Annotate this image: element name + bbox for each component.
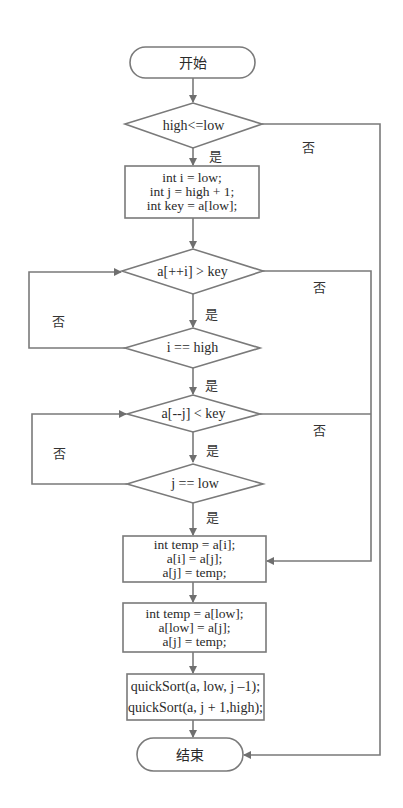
decision-1-no-label: 否: [302, 137, 315, 156]
process-3-text: int temp = a[low]; a[low] = a[j]; a[j] =…: [123, 603, 266, 652]
decision-2-no-label: 否: [313, 277, 326, 296]
process-4-text: quickSort(a, low, j –1); quickSort(a, j …: [127, 674, 264, 720]
process-2-line-3: a[j] = temp;: [163, 566, 227, 580]
process-2-line-2: a[i] = a[j];: [167, 552, 223, 566]
decision-5-yes-label: 是: [206, 507, 219, 526]
process-3-line-1: int temp = a[low];: [146, 607, 244, 621]
decision-1-yes-label: 是: [209, 146, 222, 165]
decision-2-label: a[++i] > key: [122, 249, 263, 294]
decision-1-label: high<=low: [125, 103, 262, 148]
decision-3-no-label: 否: [52, 311, 65, 330]
process-1-line-1: int i = low;: [162, 171, 222, 185]
process-4-line-1: quickSort(a, low, j –1);: [131, 676, 260, 697]
process-3-line-3: a[j] = temp;: [163, 635, 227, 649]
decision-5-no-label: 否: [53, 443, 66, 462]
decision-3-label: i == high: [125, 328, 260, 368]
decision-3-yes-label: 是: [205, 375, 218, 394]
decision-2-yes-label: 是: [205, 304, 218, 323]
process-2-text: int temp = a[i]; a[i] = a[j]; a[j] = tem…: [123, 536, 266, 582]
decision-5-label: j == low: [127, 464, 263, 503]
process-3-line-2: a[low] = a[j];: [158, 621, 230, 635]
decision-4-no-label: 否: [313, 420, 326, 439]
process-1-line-3: int key = a[low];: [147, 199, 237, 213]
start-label: 开始: [130, 47, 255, 78]
process-1-line-2: int j = high + 1;: [150, 185, 235, 199]
end-label: 结束: [137, 738, 243, 771]
decision-4-yes-label: 是: [206, 440, 219, 459]
process-4-line-2: quickSort(a, j + 1,high);: [128, 697, 263, 718]
process-1-text: int i = low; int j = high + 1; int key =…: [125, 166, 259, 218]
decision-4-label: a[--j] < key: [127, 395, 260, 432]
process-2-line-1: int temp = a[i];: [154, 538, 235, 552]
